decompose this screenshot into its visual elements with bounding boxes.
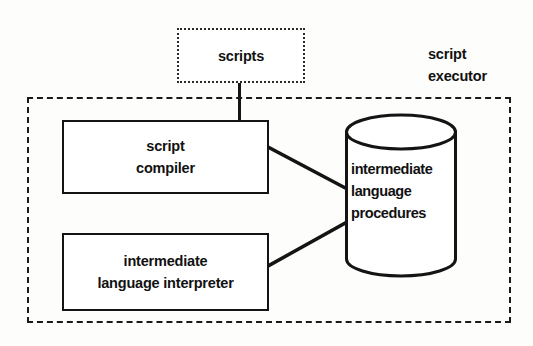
script-compiler-label-line-2: compiler [136, 157, 195, 179]
script-compiler-label-line-1: script [146, 135, 184, 157]
diagram-canvas: scripts script compiler intermediate lan… [0, 0, 533, 346]
data-store-label-line-2: language [351, 180, 411, 202]
script-executor-caption-line-1: script [428, 44, 466, 66]
interpreter-label-line-2: language interpreter [97, 272, 233, 294]
script-executor-caption: script executor [428, 44, 524, 88]
intermediate-language-interpreter-box[interactable]: intermediate language interpreter [62, 233, 269, 311]
data-store-label-line-3: procedures [351, 202, 426, 224]
script-executor-caption-line-2: executor [428, 66, 487, 88]
data-store-label: intermediate language procedures [351, 158, 463, 224]
scripts-box[interactable]: scripts [177, 28, 305, 83]
script-compiler-box[interactable]: script compiler [62, 120, 269, 194]
data-store-label-line-1: intermediate [351, 158, 432, 180]
scripts-box-label: scripts [218, 48, 264, 64]
interpreter-label-line-1: intermediate [124, 250, 208, 272]
intermediate-language-procedures-store[interactable]: intermediate language procedures [344, 114, 458, 277]
